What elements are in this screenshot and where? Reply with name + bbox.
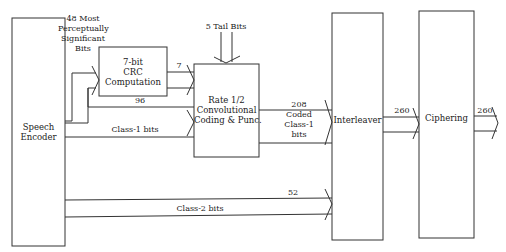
- ciphering-block: [419, 11, 474, 238]
- tail-bits-label: 5 Tail Bits: [201, 22, 251, 32]
- class1-count: 96: [130, 96, 150, 106]
- ciphering-out-count: 260: [475, 106, 495, 116]
- crc-label: 7-bit CRC Computation: [99, 57, 167, 87]
- msb-bus-arrow: [65, 66, 99, 123]
- interleaver-block: [332, 13, 383, 240]
- interleaver-out-count: 260: [392, 106, 412, 116]
- speech-encoder-label: Speech Encoder: [12, 122, 65, 142]
- ciphering-label: Ciphering: [419, 113, 474, 123]
- tail-bits-arrow: [214, 32, 240, 63]
- class2-label: Class-2 bits: [165, 204, 235, 214]
- class1-label: Class-1 bits: [100, 125, 170, 135]
- class2-count: 52: [283, 188, 303, 198]
- msb-label: 48 Most Perceptually Significant Bits: [58, 14, 108, 54]
- crc-out-count: 7: [173, 61, 185, 71]
- coded-label: 208 Coded Class-1 bits: [279, 100, 319, 140]
- interleaver-label: Interleaver: [332, 115, 383, 125]
- conv-coding-label: Rate 1/2 Convolutional Coding & Punc.: [194, 95, 259, 125]
